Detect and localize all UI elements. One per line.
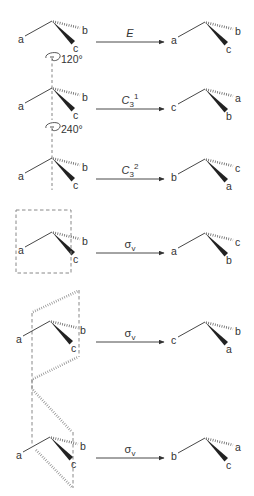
substituent-label-left: a bbox=[16, 449, 22, 461]
substituent-label-hashed: c bbox=[235, 236, 240, 248]
symmetry-operations-diagram: abcEabc120°abcC31cab240°abcC32bcaabcσvac… bbox=[0, 0, 254, 496]
wedge-bond bbox=[52, 232, 75, 256]
plain-bond bbox=[178, 89, 205, 104]
substituent-label-left: a bbox=[18, 100, 24, 112]
substituent-label-hashed: b bbox=[80, 324, 86, 336]
operation-label: E bbox=[126, 27, 134, 39]
substituent-label-wedge: c bbox=[73, 109, 78, 121]
substituent-label-hashed: b bbox=[235, 25, 241, 37]
wedge-bond bbox=[50, 321, 73, 345]
substituent-label-left: a bbox=[171, 34, 177, 46]
plain-bond bbox=[178, 322, 205, 337]
before-molecule: abc bbox=[18, 88, 88, 121]
wedge-bond bbox=[50, 437, 73, 461]
after-molecule: bca bbox=[171, 159, 240, 192]
operation-label: C32 bbox=[122, 162, 139, 179]
operation-subscript: v bbox=[131, 333, 135, 342]
plain-bond bbox=[25, 158, 52, 173]
wedge-bond bbox=[205, 159, 228, 183]
operation-row: abcσvacb bbox=[18, 232, 240, 266]
substituent-label-left: c bbox=[171, 334, 176, 346]
operation-superscript: 2 bbox=[134, 162, 139, 171]
after-molecule: bac bbox=[171, 438, 241, 471]
substituent-label-hashed: a bbox=[235, 441, 241, 453]
before-molecule: abc bbox=[18, 232, 88, 265]
substituent-label-left: a bbox=[171, 245, 177, 257]
operation-label: C31 bbox=[122, 92, 139, 109]
wedge-bond bbox=[205, 89, 228, 113]
operation-symbol: E bbox=[126, 27, 134, 39]
mirror-plane bbox=[32, 290, 79, 390]
wedge-bond bbox=[52, 21, 75, 45]
operation-symbol: C bbox=[122, 164, 130, 176]
plain-bond bbox=[178, 233, 205, 248]
wedge-bond bbox=[52, 88, 75, 112]
substituent-label-wedge: c bbox=[71, 342, 76, 354]
after-molecule: cba bbox=[171, 322, 241, 355]
after-molecule: abc bbox=[171, 22, 241, 55]
substituent-label-wedge: c bbox=[226, 459, 231, 471]
substituent-label-wedge: c bbox=[71, 458, 76, 470]
substituent-label-wedge: c bbox=[226, 43, 231, 55]
substituent-label-hashed: b bbox=[82, 235, 88, 247]
substituent-label-left: a bbox=[18, 33, 24, 45]
plain-bond bbox=[25, 88, 52, 103]
operation-label: σv bbox=[125, 327, 136, 342]
after-molecule: cab bbox=[171, 89, 241, 122]
wedge-bond bbox=[205, 438, 228, 462]
operation-row: abcσvbac bbox=[16, 380, 241, 488]
wedge-bond bbox=[52, 158, 75, 182]
substituent-label-left: b bbox=[171, 171, 177, 183]
operation-label: σv bbox=[125, 238, 136, 253]
plain-bond bbox=[178, 159, 205, 174]
before-molecule: abc bbox=[18, 21, 88, 54]
substituent-label-hashed: b bbox=[235, 325, 241, 337]
substituent-label-wedge: c bbox=[73, 253, 78, 265]
substituent-label-hashed: c bbox=[235, 162, 240, 174]
substituent-label-hashed: b bbox=[82, 24, 88, 36]
after-molecule: acb bbox=[171, 233, 240, 266]
operation-label: σv bbox=[125, 443, 136, 458]
rotation-angle-label: 120° bbox=[61, 53, 83, 65]
before-molecule: abc bbox=[16, 321, 86, 354]
operation-row: abcEabc bbox=[18, 21, 241, 55]
operation-subscript: v bbox=[131, 244, 135, 253]
substituent-label-left: a bbox=[18, 244, 24, 256]
wedge-bond bbox=[205, 233, 228, 257]
operation-superscript: 1 bbox=[134, 92, 139, 101]
operation-row: 240°abcC32bca bbox=[18, 123, 240, 192]
operation-subscript: v bbox=[131, 449, 135, 458]
substituent-label-left: a bbox=[18, 170, 24, 182]
operation-subscript: 3 bbox=[130, 170, 135, 179]
mirror-plane bbox=[32, 380, 73, 488]
plain-bond bbox=[25, 21, 52, 36]
wedge-bond bbox=[205, 22, 228, 46]
substituent-label-wedge: b bbox=[226, 254, 232, 266]
plain-bond bbox=[25, 232, 52, 247]
substituent-label-wedge: a bbox=[226, 180, 232, 192]
operation-row: 120°abcC31cab bbox=[18, 53, 241, 122]
substituent-label-left: a bbox=[16, 333, 22, 345]
wedge-bond bbox=[205, 322, 228, 346]
substituent-label-wedge: a bbox=[226, 343, 232, 355]
substituent-label-left: c bbox=[171, 101, 176, 113]
substituent-label-left: b bbox=[171, 450, 177, 462]
operation-row: abcσvcba bbox=[16, 290, 241, 390]
substituent-label-hashed: b bbox=[82, 161, 88, 173]
plain-bond bbox=[178, 22, 205, 37]
rotation-angle-label: 240° bbox=[61, 123, 83, 135]
operation-subscript: 3 bbox=[130, 100, 135, 109]
substituent-label-wedge: c bbox=[73, 179, 78, 191]
before-molecule: abc bbox=[18, 158, 88, 191]
operation-symbol: C bbox=[122, 94, 130, 106]
plain-bond bbox=[178, 438, 205, 453]
substituent-label-hashed: a bbox=[235, 92, 241, 104]
substituent-label-wedge: b bbox=[226, 110, 232, 122]
substituent-label-hashed: b bbox=[80, 440, 86, 452]
plain-bond bbox=[23, 321, 50, 336]
substituent-label-hashed: b bbox=[82, 91, 88, 103]
